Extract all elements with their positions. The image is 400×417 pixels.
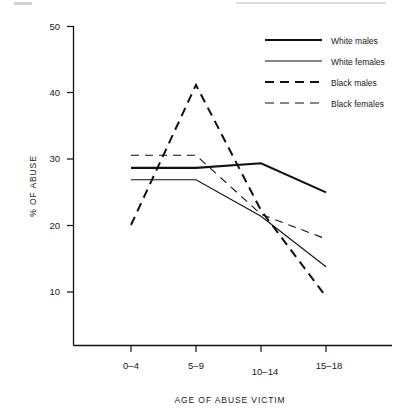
x-axis-title: AGE OF ABUSE VICTIM xyxy=(174,395,285,405)
series-line-white-females xyxy=(131,180,326,267)
legend: White males White females Black males Bl… xyxy=(265,36,385,109)
legend-item-white-males[interactable]: White males xyxy=(265,36,378,46)
y-tick-label: 30 xyxy=(49,153,60,164)
y-tick-marks xyxy=(67,27,74,293)
series-line-white-males xyxy=(131,163,326,192)
legend-label: White females xyxy=(331,57,385,67)
legend-label: Black males xyxy=(331,78,377,88)
x-tick-labels: 0–4 5–9 10–14 15–18 xyxy=(123,360,342,377)
legend-item-white-females[interactable]: White females xyxy=(265,57,385,67)
series-line-black-males xyxy=(131,85,326,297)
legend-item-black-males[interactable]: Black males xyxy=(265,78,377,88)
axis-group xyxy=(67,26,392,352)
legend-item-black-females[interactable]: Black females xyxy=(265,99,384,109)
chart-container: 50 40 30 20 10 0–4 5–9 10–14 15–18 AGE O… xyxy=(0,0,400,417)
x-tick-label: 0–4 xyxy=(123,360,139,371)
scan-artifacts xyxy=(14,2,386,5)
y-tick-label: 50 xyxy=(49,21,60,32)
x-tick-label: 15–18 xyxy=(316,360,342,371)
x-tick-label: 5–9 xyxy=(188,360,204,371)
y-tick-label: 20 xyxy=(49,220,60,231)
line-chart: 50 40 30 20 10 0–4 5–9 10–14 15–18 AGE O… xyxy=(0,0,400,417)
x-tick-label: 10–14 xyxy=(252,366,278,377)
y-axis-title: % OF ABUSE xyxy=(28,155,38,216)
legend-label: White males xyxy=(331,36,378,46)
series-layer xyxy=(131,85,326,297)
y-tick-labels: 50 40 30 20 10 xyxy=(49,21,60,297)
y-tick-label: 40 xyxy=(49,87,60,98)
legend-label: Black females xyxy=(331,99,384,109)
y-tick-label: 10 xyxy=(49,286,60,297)
x-tick-marks xyxy=(131,346,326,353)
